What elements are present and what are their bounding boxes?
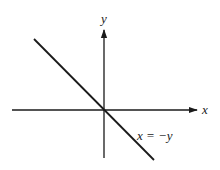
y-axis-label: y bbox=[99, 11, 107, 26]
x-axis-label: x bbox=[201, 102, 208, 117]
line-x-equals-neg-y bbox=[34, 39, 154, 160]
coordinate-diagram: y x x = −y bbox=[0, 0, 220, 170]
equation-label: x = −y bbox=[136, 128, 173, 143]
